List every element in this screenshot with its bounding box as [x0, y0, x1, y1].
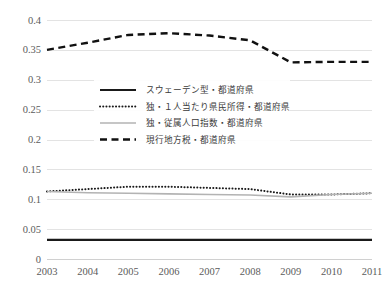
y-tick-label: 0.2: [28, 134, 41, 145]
x-tick-label: 2011: [362, 266, 382, 277]
chart-legend: スウェーデン型・都道府県独・１人当たり県民所得・都道府県独・従属人口指数・都道府…: [94, 79, 290, 151]
legend-label-sweden-type: スウェーデン型・都道府県: [146, 84, 254, 95]
line-chart: 00.050.10.150.20.250.30.350.4 2003200420…: [0, 0, 382, 287]
y-tick-label: 0.05: [23, 224, 41, 235]
chart-canvas: 00.050.10.150.20.250.30.350.4 2003200420…: [0, 0, 382, 287]
x-axis-tick-labels: 200320042005200620072008200920102011: [37, 266, 382, 277]
y-tick-label: 0.15: [23, 164, 41, 175]
y-tick-label: 0.1: [28, 194, 41, 205]
x-tick-label: 2005: [118, 266, 139, 277]
y-tick-label: 0.25: [23, 104, 41, 115]
x-tick-label: 2004: [77, 266, 99, 277]
legend-label-dependency-index: 独・従属人口指数・都道府県: [146, 117, 263, 128]
x-tick-label: 2007: [199, 266, 220, 277]
x-tick-label: 2008: [240, 266, 261, 277]
y-tick-label: 0.3: [28, 74, 41, 85]
x-tick-label: 2006: [158, 266, 179, 277]
y-tick-label: 0.35: [23, 44, 41, 55]
legend-label-current-local-tax: 現行地方税・都道府県: [146, 134, 236, 145]
x-tick-label: 2003: [37, 266, 58, 277]
y-tick-label: 0: [36, 254, 41, 265]
y-tick-label: 0.4: [28, 15, 42, 26]
legend-label-income-per-capita: 独・１人当たり県民所得・都道府県: [146, 101, 290, 112]
x-tick-label: 2010: [321, 266, 342, 277]
x-tick-label: 2009: [280, 266, 301, 277]
